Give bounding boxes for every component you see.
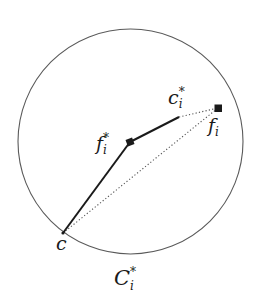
label-circle-c-i-star: C*i bbox=[114, 268, 138, 289]
label-circle-base: C bbox=[114, 266, 130, 290]
diagram-svg bbox=[0, 0, 258, 308]
edge-c-to-f-i bbox=[63, 108, 218, 233]
label-f-i-star-sub: i bbox=[103, 144, 107, 156]
label-circle-sub: i bbox=[130, 280, 134, 292]
square-f-i-icon bbox=[215, 105, 223, 113]
edge-c-to-f-i-star bbox=[63, 142, 130, 233]
diagram-canvas: c*i fi f*i c C*i bbox=[0, 0, 258, 308]
label-c-base: c bbox=[56, 232, 67, 254]
label-f-i-sub: i bbox=[215, 126, 219, 138]
label-circle-sup: * bbox=[130, 266, 136, 278]
label-f-i-star-base: f bbox=[96, 132, 103, 154]
label-c-i-star-base: c bbox=[168, 86, 179, 108]
label-f-i-base: f bbox=[208, 114, 215, 136]
label-f-i: fi bbox=[208, 116, 223, 135]
label-c-i-star: c*i bbox=[168, 88, 187, 107]
edge-f-i-star-to-c-i-star bbox=[130, 117, 179, 142]
label-c-i-star-sub: i bbox=[179, 98, 183, 110]
label-f-i-star: f*i bbox=[96, 134, 111, 153]
label-c: c bbox=[56, 234, 67, 253]
